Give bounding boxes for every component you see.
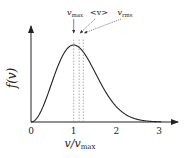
y-axis-label: f(v) (5, 67, 19, 89)
annotation-label: vrms (117, 8, 132, 18)
annotation-arrow (80, 19, 95, 33)
annotation-label: <v> (90, 8, 108, 17)
distribution-curve (31, 45, 161, 122)
x-tick-label: 0 (28, 126, 34, 136)
chart: 0123 f(v) v/vmax vmax<v>vrms (0, 0, 194, 158)
x-axis-label: v/vmax (65, 137, 96, 151)
x-tick-label: 3 (156, 126, 162, 136)
x-tick-label: 1 (71, 126, 77, 136)
annotation-arrow (84, 19, 121, 33)
x-tick-label: 2 (114, 126, 120, 136)
annotation-label: vmax (67, 8, 84, 18)
